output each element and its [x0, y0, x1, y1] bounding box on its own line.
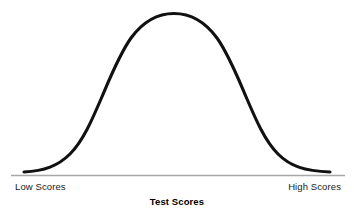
x-axis-high-label: High Scores — [288, 181, 341, 192]
normal-distribution-curve — [24, 14, 330, 173]
bell-curve-figure: Low Scores High Scores Test Scores — [0, 0, 354, 216]
x-axis-title: Test Scores — [0, 196, 354, 207]
x-axis-low-label: Low Scores — [15, 181, 66, 192]
